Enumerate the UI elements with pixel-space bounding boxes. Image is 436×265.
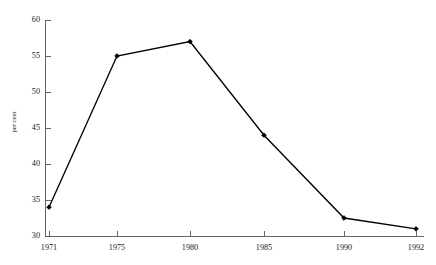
y-tick-label-55: 55 <box>32 51 40 60</box>
data-point-1971 <box>47 205 52 210</box>
y-axis: 60 55 50 45 40 35 30 per cent <box>10 15 51 240</box>
y-axis-title: per cent <box>10 111 17 132</box>
y-tick-label-40: 40 <box>32 159 40 168</box>
data-marker-group <box>47 39 419 231</box>
x-tick-label-1990: 1990 <box>336 243 352 252</box>
y-tick-label-60: 60 <box>32 15 40 24</box>
x-tick-label-1985: 1985 <box>256 243 272 252</box>
y-axis-tick-labels: 60 55 50 45 40 35 30 <box>32 15 40 240</box>
y-tick-label-50: 50 <box>32 87 40 96</box>
chart-canvas: 60 55 50 45 40 35 30 per cent 1971 <box>0 0 436 265</box>
data-series-group <box>47 39 419 231</box>
data-line-per-cent <box>49 42 416 229</box>
x-axis-ticks <box>49 231 416 236</box>
line-chart: 60 55 50 45 40 35 30 per cent 1971 <box>0 0 436 265</box>
x-tick-label-1975: 1975 <box>109 243 125 252</box>
x-tick-label-1971: 1971 <box>41 243 57 252</box>
y-tick-label-35: 35 <box>32 195 40 204</box>
x-axis-tick-labels: 1971 1975 1980 1985 1990 1992 <box>41 243 424 252</box>
data-point-1975 <box>115 54 120 59</box>
y-tick-label-30: 30 <box>32 231 40 240</box>
x-axis: 1971 1975 1980 1985 1990 1992 <box>41 231 424 252</box>
y-tick-label-45: 45 <box>32 123 40 132</box>
data-point-1992 <box>414 226 419 231</box>
x-tick-label-1992: 1992 <box>408 243 424 252</box>
x-tick-label-1980: 1980 <box>182 243 198 252</box>
